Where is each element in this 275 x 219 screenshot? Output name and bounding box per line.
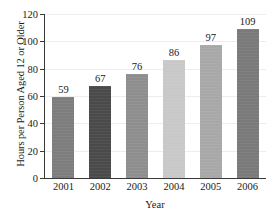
bar[interactable] <box>163 60 185 178</box>
bar-slot: 59 <box>52 14 74 178</box>
bar-slot: 76 <box>126 14 148 178</box>
bar[interactable] <box>237 29 259 178</box>
y-tick-label: 80 <box>28 63 39 74</box>
bar-slot: 67 <box>89 14 111 178</box>
y-tick-mark <box>40 178 44 179</box>
x-axis-title: Year <box>44 199 266 210</box>
bar[interactable] <box>89 86 111 178</box>
x-tick-label: 2002 <box>82 181 119 192</box>
y-tick-mark <box>40 14 44 15</box>
y-tick-label: 0 <box>33 173 38 184</box>
y-tick-mark <box>40 151 44 152</box>
y-tick-mark <box>40 123 44 124</box>
x-tick-label: 2004 <box>156 181 193 192</box>
bar[interactable] <box>200 45 222 178</box>
y-tick-label: 120 <box>22 9 38 20</box>
x-axis-line <box>44 178 266 179</box>
bar-value-label: 97 <box>206 32 217 43</box>
x-axis-tick-labels: 200120022003200420052006 <box>45 181 266 195</box>
bar-value-label: 76 <box>132 61 143 72</box>
bar-value-label: 86 <box>169 47 180 58</box>
bar[interactable] <box>52 97 74 178</box>
x-tick-label: 2005 <box>192 181 229 192</box>
y-tick-mark <box>40 41 44 42</box>
bar-slot: 86 <box>163 14 185 178</box>
plot-area: 020406080100120 5967768697109 <box>44 14 266 178</box>
bar-chart: Hours per Person Aged 12 or Older 020406… <box>0 0 275 219</box>
bar-series: 5967768697109 <box>45 14 266 178</box>
y-tick-mark <box>40 69 44 70</box>
bar-slot: 97 <box>200 14 222 178</box>
x-tick-label: 2001 <box>45 181 82 192</box>
bar[interactable] <box>126 74 148 178</box>
bar-value-label: 109 <box>240 16 256 27</box>
y-tick-label: 100 <box>22 36 38 47</box>
y-tick-label: 60 <box>28 91 39 102</box>
y-tick-label: 20 <box>28 145 39 156</box>
bar-value-label: 59 <box>58 84 69 95</box>
y-tick-mark <box>40 96 44 97</box>
y-tick-label: 40 <box>28 118 39 129</box>
x-tick-label: 2006 <box>229 181 266 192</box>
y-axis-title: Hours per Person Aged 12 or Older <box>15 4 27 184</box>
x-tick-label: 2003 <box>119 181 156 192</box>
bar-value-label: 67 <box>95 73 106 84</box>
bar-slot: 109 <box>237 14 259 178</box>
